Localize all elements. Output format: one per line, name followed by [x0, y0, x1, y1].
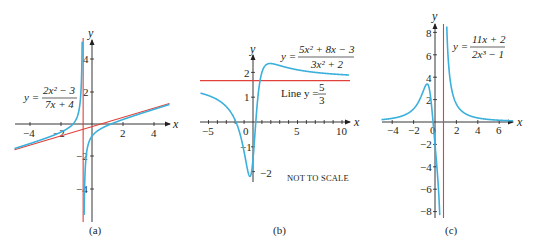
- y-tick-label: −4: [420, 161, 432, 173]
- svg-text:y =: y =: [280, 50, 296, 62]
- y-axis-label: y: [249, 42, 256, 56]
- y-axis-label: y: [431, 9, 438, 23]
- panel-a: −4 −2 2 4 4 2 −2 −4 x y y = 2x² − 3 7x +…: [15, 26, 180, 237]
- y-tick-label: 1: [244, 91, 250, 103]
- y-axis-label: y: [87, 26, 94, 40]
- x-tick-label: 4: [151, 127, 157, 139]
- y-tick-label: −4: [76, 183, 88, 195]
- equation-label: y = 11x + 2 2x³ − 1: [452, 33, 506, 60]
- y-tick-label: −8: [420, 205, 432, 217]
- panel-b: −5 0 5 10 2 1 −1 −2 x y y = 5x² + 8x − 3…: [200, 42, 360, 237]
- y-tick-label: −2: [420, 138, 432, 150]
- svg-text:5: 5: [319, 81, 325, 93]
- y-tick-label: 4: [426, 72, 432, 84]
- svg-text:3x² + 2: 3x² + 2: [310, 58, 344, 70]
- panel-caption: (c): [445, 224, 458, 237]
- x-tick-label: 6: [496, 124, 502, 136]
- x-tick-label: −2: [408, 124, 420, 136]
- x-axis-label: x: [516, 115, 523, 129]
- svg-text:7x + 4: 7x + 4: [45, 98, 74, 110]
- svg-text:y =: y =: [23, 91, 39, 103]
- asymptote-label: Line y = 5 3: [281, 81, 326, 106]
- figure-panels: −4 −2 2 4 4 2 −2 −4 x y y = 2x² − 3 7x +…: [0, 0, 533, 246]
- x-tick-label: 2: [120, 127, 126, 139]
- svg-text:5x² + 8x − 3: 5x² + 8x − 3: [299, 43, 355, 55]
- panel-caption: (b): [273, 224, 286, 237]
- not-to-scale-note: NOT TO SCALE: [287, 173, 349, 183]
- svg-text:2x² − 3: 2x² − 3: [43, 84, 76, 96]
- equation-label: y = 5x² + 8x − 3 3x² + 2: [280, 43, 355, 70]
- x-axis-label: x: [172, 117, 179, 131]
- x-tick-label: 10: [336, 125, 348, 137]
- svg-text:Line y =: Line y =: [281, 87, 318, 99]
- svg-text:3: 3: [319, 94, 325, 106]
- x-tick-label: −4: [387, 124, 399, 136]
- x-tick-label: 4: [475, 124, 481, 136]
- y-tick-label: −6: [420, 183, 432, 195]
- panel-caption: (a): [89, 224, 102, 237]
- panel-c: −4 −2 0 2 4 6 8 6 4 2 −2 −4 −6 −8 x y y …: [382, 9, 524, 237]
- x-axis-label: x: [353, 115, 360, 129]
- svg-text:2x³ − 1: 2x³ − 1: [472, 48, 504, 60]
- x-tick-label: 0: [243, 125, 249, 137]
- x-tick-label: 2: [454, 124, 460, 136]
- y-tick-label: 4: [83, 53, 89, 65]
- y-tick-label: 6: [426, 50, 432, 62]
- svg-text:11x + 2: 11x + 2: [472, 33, 506, 45]
- y-tick-label: 8: [426, 27, 432, 39]
- equation-label: y = 2x² − 3 7x + 4: [23, 84, 77, 110]
- y-tick-label: −2: [260, 167, 272, 179]
- x-tick-label: 5: [294, 125, 300, 137]
- x-tick-label: −5: [202, 125, 214, 137]
- y-tick-label: 2: [244, 67, 250, 79]
- y-tick-label: 2: [83, 86, 89, 98]
- svg-text:y =: y =: [452, 40, 468, 52]
- x-tick-label: −4: [23, 127, 35, 139]
